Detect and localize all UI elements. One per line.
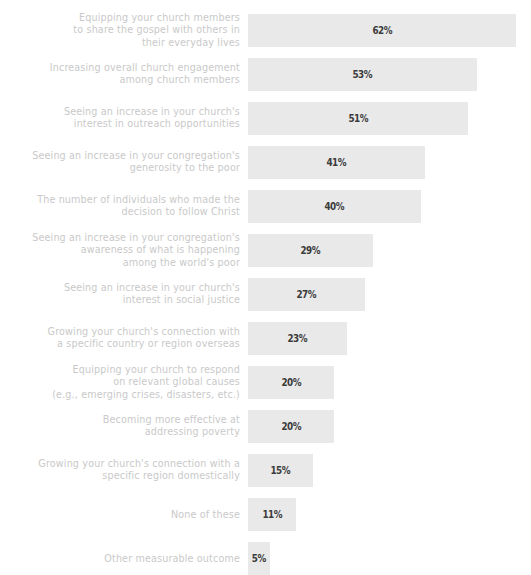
category-label: The number of individuals who made the d… (4, 194, 240, 219)
bar-row: Growing your church's connection with a … (0, 322, 531, 355)
bar: 41% (248, 146, 425, 179)
bar: 40% (248, 190, 421, 223)
bar-row: The number of individuals who made the d… (0, 190, 531, 223)
bar-value-label: 41% (327, 156, 347, 169)
category-label: Other measurable outcome (4, 552, 240, 565)
category-label: None of these (4, 508, 240, 521)
bar: 15% (248, 454, 313, 487)
bar-row: Equipping your church to respond on rele… (0, 366, 531, 399)
category-label: Seeing an increase in your church's inte… (4, 106, 240, 131)
bar: 29% (248, 234, 373, 267)
bar-row: Increasing overall church engagement amo… (0, 58, 531, 91)
bar: 23% (248, 322, 347, 355)
bar-value-label: 11% (262, 508, 282, 521)
bar-container: 29% (248, 234, 373, 267)
category-label: Growing your church's connection with a … (4, 458, 240, 483)
bar-row: Equipping your church members to share t… (0, 14, 531, 47)
bar-container: 15% (248, 454, 313, 487)
bar-row: Seeing an increase in your church's inte… (0, 278, 531, 311)
bar-value-label: 29% (301, 244, 321, 257)
bar: 20% (248, 366, 334, 399)
bar-value-label: 5% (252, 552, 266, 565)
category-label: Equipping your church members to share t… (4, 12, 240, 50)
bar-container: 51% (248, 102, 468, 135)
bar-row: Other measurable outcome5% (0, 542, 531, 575)
bar-container: 40% (248, 190, 421, 223)
category-label: Seeing an increase in your congregation'… (4, 232, 240, 270)
bar-row: Growing your church's connection with a … (0, 454, 531, 487)
bar-row: None of these11% (0, 498, 531, 531)
bar-container: 5% (248, 542, 270, 575)
bar-container: 20% (248, 366, 334, 399)
bar: 51% (248, 102, 468, 135)
bar-value-label: 27% (297, 288, 317, 301)
bar-row: Seeing an increase in your church's inte… (0, 102, 531, 135)
category-label: Becoming more effective at addressing po… (4, 414, 240, 439)
bar: 20% (248, 410, 334, 443)
category-label: Increasing overall church engagement amo… (4, 62, 240, 87)
bar-row: Becoming more effective at addressing po… (0, 410, 531, 443)
bar: 62% (248, 14, 516, 47)
bar-row: Seeing an increase in your congregation'… (0, 234, 531, 267)
bar-value-label: 62% (372, 24, 392, 37)
bar-container: 53% (248, 58, 477, 91)
bar: 53% (248, 58, 477, 91)
category-label: Seeing an increase in your congregation'… (4, 150, 240, 175)
bar-container: 11% (248, 498, 296, 531)
bar: 27% (248, 278, 365, 311)
bar-container: 27% (248, 278, 365, 311)
bar-value-label: 51% (348, 112, 368, 125)
bar: 11% (248, 498, 296, 531)
bar-value-label: 15% (271, 464, 291, 477)
bar-value-label: 40% (325, 200, 345, 213)
bar: 5% (248, 542, 270, 575)
bar-container: 62% (248, 14, 516, 47)
bar-value-label: 53% (353, 68, 373, 81)
bar-container: 41% (248, 146, 425, 179)
bar-value-label: 23% (288, 332, 308, 345)
category-label: Equipping your church to respond on rele… (4, 364, 240, 402)
category-label: Seeing an increase in your church's inte… (4, 282, 240, 307)
bar-value-label: 20% (281, 420, 301, 433)
bar-container: 20% (248, 410, 334, 443)
bar-container: 23% (248, 322, 347, 355)
bar-value-label: 20% (281, 376, 301, 389)
bar-row: Seeing an increase in your congregation'… (0, 146, 531, 179)
category-label: Growing your church's connection with a … (4, 326, 240, 351)
